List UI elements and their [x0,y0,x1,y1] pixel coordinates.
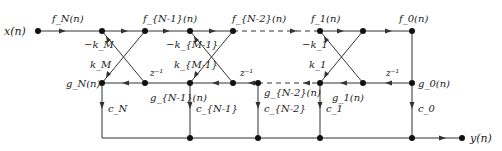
delay-label-1: z⁻¹ [149,68,163,78]
label-kM: k_M [90,59,112,71]
delay-label-2: z⁻¹ [239,68,253,78]
label-c1: c_1 [326,103,343,115]
label-gN: g_N(n) [66,78,100,90]
label-cN: c_N [108,103,129,115]
output-node [459,135,465,141]
label-f1: f_1(n) [310,13,340,25]
labels: x(n) y(n) f_N(n) f_{N-1}(n) f_{N-2}(n) f… [4,13,492,145]
delay-label-3: z⁻¹ [385,68,399,78]
label-cN1: c_{N-1} [196,103,238,115]
label-fN: f_N(n) [51,13,84,25]
label-g0: g_0(n) [418,78,450,90]
label-f0: f_0(n) [398,13,428,25]
label-c0: c_0 [418,103,436,115]
label-negkM: −k_M [84,39,114,51]
label-fN2: f_{N-2}(n) [231,13,286,25]
label-fN1: f_{N-1}(n) [142,13,197,25]
label-kM1: k_{M-1} [174,59,218,71]
label-k1: k_1 [309,59,326,71]
label-gN2: g_{N-2}(n) [264,87,321,99]
label-negk1: −k_1 [302,39,328,51]
output-label: y(n) [469,132,492,145]
lattice-ladder-diagram: x(n) y(n) f_N(n) f_{N-1}(n) f_{N-2}(n) f… [0,0,502,151]
label-cN2: c_{N-2} [264,103,306,115]
label-negkM1: −k_{M-1} [166,39,218,51]
forward-path [38,29,412,34]
input-label: x(n) [4,25,26,38]
input-node [35,28,41,34]
